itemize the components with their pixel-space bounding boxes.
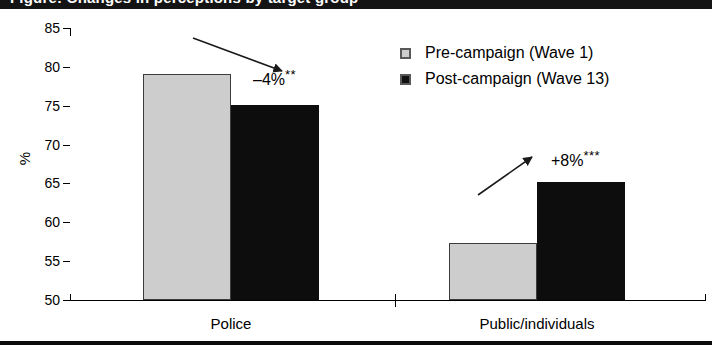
x-axis-right-cap — [705, 294, 706, 301]
y-axis-tick-label-text: 80 — [26, 60, 60, 74]
y-axis-tick-label-text: 85 — [26, 21, 60, 35]
y-axis-tick — [63, 261, 70, 262]
y-axis-tick — [63, 222, 70, 223]
y-axis-tick-label-text: 60 — [26, 215, 60, 229]
y-axis-tick — [63, 300, 70, 301]
y-axis-tick-label: 50 — [20, 293, 60, 307]
bar-police-pre-campaign[interactable] — [143, 74, 231, 300]
y-axis-title: % — [16, 129, 33, 189]
legend-label-post-campaign: Post-campaign (Wave 13) — [425, 70, 609, 88]
x-axis-line — [70, 300, 706, 301]
figure-title-band: Figure: Changes in perceptions by target… — [0, 0, 712, 9]
bar-police-post-campaign[interactable] — [231, 105, 319, 300]
annotation-police-significance: ** — [285, 67, 296, 82]
annotation-public-change: +8%*** — [551, 147, 600, 169]
y-axis-tick-label-text: 75 — [26, 99, 60, 113]
bar-chart-figure: Figure: Changes in perceptions by target… — [0, 0, 712, 349]
y-axis-tick — [63, 145, 70, 146]
y-axis-tick-label: 55 — [20, 254, 60, 268]
category-divider-tick — [395, 294, 396, 307]
y-axis-tick-label: 80 — [20, 60, 60, 74]
annotation-police-value: –4% — [253, 71, 285, 88]
y-axis-tick — [63, 106, 70, 107]
y-axis-tick — [63, 28, 70, 29]
bar-public-individuals-pre-campaign[interactable] — [449, 243, 537, 300]
y-axis-tick-label: 75 — [20, 99, 60, 113]
y-axis-tick — [63, 183, 70, 184]
y-axis-tick-label-text: 50 — [26, 293, 60, 307]
annotation-police-change: –4%** — [253, 66, 296, 88]
x-axis-category-label: Police — [121, 316, 341, 332]
annotation-public-value: +8% — [551, 152, 583, 169]
y-axis-tick-label: 85 — [20, 21, 60, 35]
legend-swatch-pre-campaign-icon — [400, 48, 411, 59]
legend-item-post-campaign: Post-campaign (Wave 13) — [400, 66, 609, 92]
y-axis-top-cap — [70, 28, 71, 36]
x-axis-left-cap — [70, 294, 71, 301]
y-axis-tick-label: 60 — [20, 215, 60, 229]
figure-title-text: Figure: Changes in perceptions by target… — [10, 0, 358, 6]
annotation-public-significance: *** — [583, 148, 600, 163]
legend-swatch-post-campaign-icon — [400, 74, 411, 85]
x-axis-category-label: Public/individuals — [427, 316, 647, 332]
figure-bottom-rule — [0, 341, 712, 345]
legend-label-pre-campaign: Pre-campaign (Wave 1) — [425, 44, 593, 62]
chart-legend: Pre-campaign (Wave 1) Post-campaign (Wav… — [400, 40, 609, 92]
legend-item-pre-campaign: Pre-campaign (Wave 1) — [400, 40, 609, 66]
y-axis-tick-label-text: 55 — [26, 254, 60, 268]
y-axis-tick — [63, 67, 70, 68]
